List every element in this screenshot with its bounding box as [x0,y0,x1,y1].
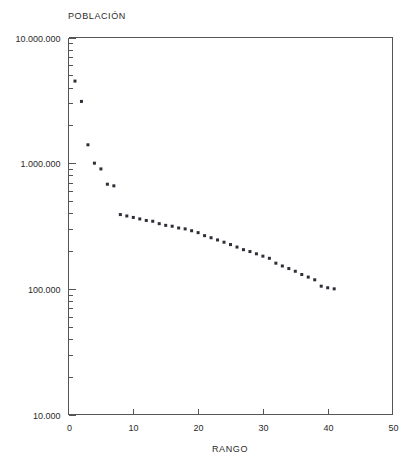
data-point [235,246,238,249]
data-point [164,224,167,227]
chart-background [0,0,418,476]
data-point [261,255,264,258]
data-point [287,267,290,270]
data-point [99,167,102,170]
data-point [80,100,83,103]
y-axis-tick-label: 1.000.000 [20,159,60,169]
data-point [190,229,193,232]
chart-container: POBLACIÓN 10.000100.0001.000.00010.000.0… [0,0,418,476]
data-point [210,236,213,239]
data-point [281,264,284,267]
x-axis-tick-label: 0 [67,423,72,433]
data-point [125,214,128,217]
data-point [229,243,232,246]
x-axis-tick-label: 10 [128,423,138,433]
data-point [203,234,206,237]
data-point [326,286,329,289]
data-point [177,226,180,229]
data-point [313,278,316,281]
data-point [132,216,135,219]
x-axis-tick-label: 50 [388,423,398,433]
data-point [333,287,336,290]
data-point [112,184,115,187]
data-point [300,273,303,276]
data-point [242,248,245,251]
x-axis-title: RANGO [212,444,248,454]
data-point [151,220,154,223]
data-point [274,262,277,265]
data-point [106,183,109,186]
data-point [223,241,226,244]
data-point [248,250,251,253]
y-axis-tick-label: 10.000 [33,411,61,421]
y-axis-tick-label: 100.000 [28,285,61,295]
rank-size-scatter-plot: POBLACIÓN 10.000100.0001.000.00010.000.0… [0,0,418,476]
data-point [158,222,161,225]
y-axis-title: POBLACIÓN [68,11,126,21]
data-point [73,80,76,83]
data-point [294,270,297,273]
x-axis-tick-label: 20 [193,423,203,433]
data-point [268,257,271,260]
data-point [255,252,258,255]
y-axis-tick-label: 10.000.000 [15,34,60,44]
data-point [320,285,323,288]
x-axis-tick-label: 40 [323,423,333,433]
data-point [184,227,187,230]
data-point [307,276,310,279]
data-point [138,217,141,220]
data-point [216,238,219,241]
data-point [197,231,200,234]
x-axis-tick-label: 30 [258,423,268,433]
data-point [171,225,174,228]
data-point [119,213,122,216]
data-point [86,143,89,146]
data-point [145,219,148,222]
data-point [93,162,96,165]
